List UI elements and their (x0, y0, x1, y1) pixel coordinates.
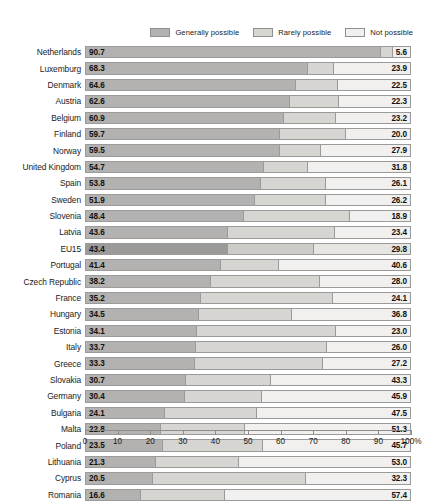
chart-row: Denmark64.622.5 (0, 77, 422, 93)
value-label-left: 33.7 (89, 342, 105, 353)
stacked-bar: 43.623.4 (85, 226, 411, 238)
stacked-bar: 24.147.5 (85, 407, 411, 419)
segment-not-possible (224, 490, 410, 500)
segment-rarely-possible (227, 227, 334, 237)
value-label-left: 38.2 (89, 276, 105, 287)
legend-item: Generally possible (150, 28, 239, 37)
value-label-left: 48.4 (89, 211, 105, 222)
chart-row: Germany30.445.9 (0, 388, 422, 404)
axis-tick-label: 90 (374, 437, 383, 446)
segment-rarely-possible (260, 178, 325, 188)
legend-label: Rarely possible (278, 28, 331, 37)
chart-row: Romania16.657.4 (0, 487, 422, 503)
segment-generally-possible (86, 113, 283, 123)
chart-row: Hungary34.536.8 (0, 306, 422, 322)
value-label-right: 28.0 (391, 276, 407, 287)
value-label-left: 16.6 (89, 490, 105, 501)
chart-row: Austria62.622.3 (0, 93, 422, 109)
axis-tick-label: 30 (178, 437, 187, 446)
chart-row: Greece33.327.2 (0, 355, 422, 371)
segment-generally-possible (86, 211, 243, 221)
value-label-right: 40.6 (391, 260, 407, 271)
legend-label: Not possible (370, 28, 413, 37)
stacked-bar: 20.532.3 (85, 472, 411, 484)
stacked-bar: 41.440.6 (85, 259, 411, 271)
row-label-cyprus: Cyprus (0, 473, 85, 483)
segment-not-possible (256, 408, 410, 418)
segment-rarely-possible (152, 473, 305, 483)
axis-tick (378, 430, 379, 435)
value-label-left: 53.8 (89, 178, 105, 189)
value-label-right: 26.2 (391, 195, 407, 206)
chart-row: Cyprus20.532.3 (0, 470, 422, 486)
row-label-france: France (0, 293, 85, 303)
axis-tick-label: 70 (309, 437, 318, 446)
axis-tick (281, 430, 282, 435)
value-label-right: 24.1 (391, 293, 407, 304)
chart-row: Belgium60.923.2 (0, 110, 422, 126)
row-label-estonia: Estonia (0, 326, 85, 336)
value-label-right: 27.9 (391, 145, 407, 156)
value-label-right: 47.5 (391, 408, 407, 419)
row-label-austria: Austria (0, 96, 85, 106)
value-label-left: 43.4 (89, 244, 105, 255)
row-label-slovenia: Slovenia (0, 211, 85, 221)
stacked-bar: 60.923.2 (85, 112, 411, 124)
axis-tick-label: 60 (276, 437, 285, 446)
stacked-bar: 33.327.2 (85, 357, 411, 369)
segment-rarely-possible (198, 309, 291, 319)
value-label-right: 36.8 (391, 309, 407, 320)
chart-row: Sweden51.926.2 (0, 192, 422, 208)
chart-row: Finland59.720.0 (0, 126, 422, 142)
stacked-bar: 38.228.0 (85, 275, 411, 287)
row-label-spain: Spain (0, 178, 85, 188)
row-label-bulgaria: Bulgaria (0, 408, 85, 418)
segment-rarely-possible (140, 490, 224, 500)
segment-generally-possible (86, 145, 279, 155)
chart-row: Bulgaria24.147.5 (0, 405, 422, 421)
legend-swatch-icon (253, 28, 273, 37)
axis-tick (313, 430, 314, 435)
value-label-left: 41.4 (89, 260, 105, 271)
segment-rarely-possible (200, 293, 332, 303)
stacked-bar: 68.323.9 (85, 62, 411, 74)
value-label-right: 23.4 (391, 227, 407, 238)
chart-row: France35.224.1 (0, 290, 422, 306)
value-label-right: 22.5 (391, 80, 407, 91)
segment-rarely-possible (289, 96, 338, 106)
value-label-left: 24.1 (89, 408, 105, 419)
row-label-greece: Greece (0, 359, 85, 369)
value-label-left: 21.3 (89, 457, 105, 468)
value-label-left: 35.2 (89, 293, 105, 304)
stacked-bar: 54.731.8 (85, 161, 411, 173)
stacked-bar: 90.75.6 (85, 46, 411, 58)
value-label-left: 68.3 (89, 63, 105, 74)
value-label-left: 20.5 (89, 473, 105, 484)
value-label-right: 29.8 (391, 244, 407, 255)
row-label-denmark: Denmark (0, 80, 85, 90)
segment-rarely-possible (185, 375, 269, 385)
segment-rarely-possible (184, 391, 261, 401)
segment-generally-possible (86, 195, 254, 205)
axis-tick (248, 430, 249, 435)
chart-row: Netherlands90.75.6 (0, 44, 422, 60)
segment-rarely-possible (295, 80, 337, 90)
segment-generally-possible (86, 178, 260, 188)
segment-rarely-possible (243, 211, 349, 221)
value-label-left: 59.5 (89, 145, 105, 156)
segment-rarely-possible (164, 408, 256, 418)
axis-tick-label: 20 (146, 437, 155, 446)
value-label-right: 5.6 (396, 47, 407, 58)
row-label-finland: Finland (0, 129, 85, 139)
segment-rarely-possible (220, 260, 278, 270)
axis-tick (346, 430, 347, 435)
segment-not-possible (270, 375, 410, 385)
value-label-left: 59.7 (89, 129, 105, 140)
legend-swatch-icon (150, 28, 170, 37)
value-label-right: 43.3 (391, 375, 407, 386)
x-axis: 0102030405060708090100% (85, 430, 411, 458)
row-label-lithuania: Lithuania (0, 457, 85, 467)
value-label-left: 62.6 (89, 96, 105, 107)
segment-rarely-possible (380, 47, 392, 57)
